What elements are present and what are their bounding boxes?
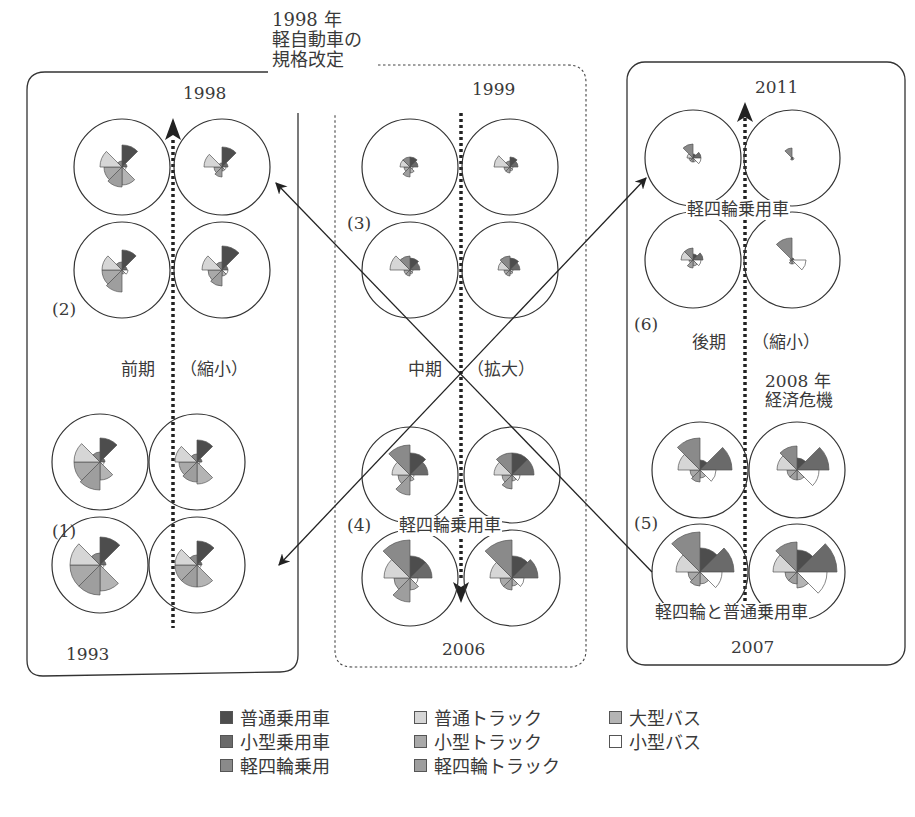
rose [672,532,734,588]
legend-label: 軽四輪乗用 [240,752,330,778]
legend-label: 小型バス [629,728,701,754]
rose [400,157,418,177]
legend-swatch [609,735,622,748]
rose-sector [700,447,732,470]
legend-swatch [220,735,233,748]
figure-stage: 1998 年 軽自動車の 規格改定 1998 (2) 前期 （縮小） (1) 1… [0,0,915,817]
legend-label: 小型トラック [434,728,542,754]
rose [100,145,138,187]
rose-sector [776,238,792,260]
rose [681,248,703,268]
early-panel-frame [27,72,298,676]
rose [102,250,136,292]
rose [204,147,236,177]
middle-change-label: （拡大） [467,360,535,380]
kei-and-regular-annotation: 軽四輪と普通乗用車 [654,603,809,623]
rose-sector [122,250,136,270]
rose [485,540,538,590]
legend-label: 普通乗用車 [240,704,330,730]
rose [777,446,829,486]
rose [175,440,213,484]
rose [494,453,534,489]
rose-sector [222,147,236,167]
late-period-label: 後期 [692,333,726,353]
legend-swatch [609,711,622,724]
late-change-label: （縮小） [752,333,820,353]
legend-swatch [220,711,233,724]
legend-label: 小型乗用車 [240,728,330,754]
rose-sector [785,148,792,158]
rose [175,541,214,587]
annotation-line: 規格改定 [272,50,362,70]
middle-period-label: 中期 [408,360,442,380]
legend-swatch [414,759,427,772]
group-label-6: (6) [634,315,658,335]
arrow-to-early-top [276,183,652,572]
legend-item: 大型バス [609,704,701,730]
rose [677,438,732,482]
group-label-4: (4) [347,516,371,536]
kei-passenger-annotation-middle: 軽四輪乗用車 [398,516,502,536]
legend-item: 普通乗用車 [220,704,330,730]
rose-sector [100,565,118,591]
legend-item: 小型乗用車 [220,728,330,754]
group-label-1: (1) [52,522,76,542]
annotation-line: 2008 年 [765,372,833,391]
middle-top-year: 1999 [472,80,515,100]
legend-swatch [414,735,427,748]
rose [776,238,806,270]
rose [785,148,794,160]
late-panel-frame [627,62,905,665]
rose-sector [197,541,214,565]
early-axis-arrowhead-icon [165,118,181,140]
rose-sector [100,537,120,565]
kei-revision-annotation: 1998 年 軽自動車の 規格改定 [272,10,362,69]
group-label-2: (2) [52,300,76,320]
group-label-5: (5) [634,514,658,534]
rose [390,256,420,276]
rose-sector [100,151,122,167]
annotation-line: 軽自動車の [272,30,362,50]
kei-passenger-annotation-late: 軽四輪乗用車 [686,200,790,220]
rose [498,256,520,276]
rose-sector [792,260,806,270]
annotation-line: 1998 年 [272,10,362,30]
rose [383,540,432,602]
arrow-to-early-bottom [279,178,646,565]
legend-label: 大型バス [629,704,701,730]
rose-sector [197,565,213,587]
early-top-year: 1998 [183,84,226,104]
legend-item: 小型バス [609,728,701,754]
legend-item: 普通トラック [414,704,542,730]
late-top-year: 2011 [755,78,798,98]
annotation-line: 経済危機 [765,391,833,410]
rose-sector [122,167,135,185]
legend-label: 軽四輪トラック [434,752,560,778]
rose-sector [197,462,213,484]
crisis-annotation: 2008 年 経済危機 [765,372,833,409]
rose-circles [52,110,845,626]
rose [494,156,518,173]
group-label-3: (3) [347,214,371,234]
rose [74,438,117,490]
rose [70,537,120,595]
legend-item: 軽四輪乗用 [220,752,330,778]
rose-sector [100,462,113,480]
legend-item: 軽四輪トラック [414,752,560,778]
legend-swatch [414,711,427,724]
rose-sector [122,145,138,167]
late-bottom-year: 2007 [731,638,774,658]
rose [773,542,837,593]
rose [683,144,701,164]
rose [389,445,428,495]
rose-sector [204,154,222,167]
rose [202,246,239,286]
rose-sector [222,246,239,270]
rose-sector [100,438,117,462]
legend-swatch [220,759,233,772]
early-bottom-year: 1993 [66,645,109,665]
early-change-label: （縮小） [180,360,248,380]
middle-bottom-year: 2006 [442,640,485,660]
rose-sector [197,440,213,462]
legend-item: 小型トラック [414,728,542,754]
